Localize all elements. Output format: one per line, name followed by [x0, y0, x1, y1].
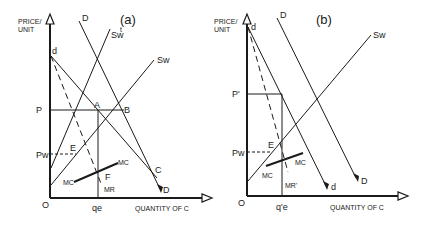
- label-Pw: Pw: [36, 150, 49, 160]
- label-Swt: Sw: [111, 30, 124, 40]
- label-d: d: [52, 46, 57, 56]
- label-d-top: d: [251, 22, 256, 32]
- label-Swt-sup: t: [120, 26, 122, 33]
- origin-label: O: [238, 198, 245, 208]
- x-axis-label: QUANTITY OF C: [330, 204, 384, 212]
- supply-curve-sw: [248, 35, 371, 181]
- y-axis-label-unit: UNIT: [18, 26, 35, 33]
- label-P: P: [36, 105, 42, 115]
- label-qe: qe: [92, 203, 102, 213]
- y-axis-label: PRICE/: [18, 18, 41, 25]
- label-A: A: [94, 100, 100, 110]
- y-axis-label-unit: UNIT: [214, 26, 231, 33]
- demand-curve-D: [277, 18, 356, 178]
- demand-curve-d: [51, 56, 157, 178]
- label-MC-left: MC: [63, 179, 74, 186]
- y-axis-label: PRICE/: [214, 18, 237, 25]
- label-Pw: Pw: [232, 148, 245, 158]
- demand-arrow-icon: [323, 181, 329, 190]
- panel-b: PRICE/ UNIT (b) O QUANTITY OF C D D d d …: [214, 10, 408, 212]
- supply-curve-sw: [51, 60, 154, 185]
- y-axis-arrow-icon: [46, 14, 54, 24]
- panel-title-b: (b): [316, 12, 332, 27]
- label-MR-prime: MR': [285, 182, 297, 189]
- demand-arrow-icon: [353, 173, 359, 182]
- x-axis-arrow-icon: [398, 192, 408, 200]
- label-Sw: Sw: [157, 55, 170, 65]
- y-axis-arrow-icon: [243, 14, 251, 24]
- label-B: B: [124, 105, 130, 115]
- x-axis-arrow-icon: [202, 194, 212, 202]
- label-MC-left: MC: [262, 172, 273, 179]
- label-E: E: [70, 143, 76, 153]
- label-qe-prime: q'e: [276, 202, 288, 212]
- label-MC-right: MC: [118, 159, 129, 166]
- panel-title-a: (a): [120, 12, 136, 27]
- origin-label: O: [42, 200, 49, 210]
- label-Sw: Sw: [373, 30, 386, 40]
- label-D-bottom: D: [163, 185, 170, 195]
- diagram-canvas: PRICE/ UNIT (a) O QUANTITY OF C D D d C …: [0, 0, 430, 229]
- label-C: C: [155, 165, 162, 175]
- label-D-bottom: D: [361, 176, 368, 186]
- label-MC-right: MC: [295, 159, 306, 166]
- label-E: E: [268, 140, 274, 150]
- label-D-top: D: [82, 13, 89, 23]
- label-d-bottom: d: [331, 182, 336, 192]
- demand-curve-d: [248, 27, 326, 186]
- x-axis-label: QUANTITY OF C: [135, 205, 189, 213]
- supply-curve-swt: [51, 29, 110, 168]
- label-D-top: D: [280, 10, 287, 20]
- marginal-cost-curve: [74, 163, 118, 182]
- panel-a: PRICE/ UNIT (a) O QUANTITY OF C D D d C …: [18, 12, 212, 213]
- label-MR: MR: [104, 186, 115, 193]
- marginal-revenue-curve: [51, 56, 102, 186]
- label-P-prime: P': [232, 89, 240, 99]
- label-F: F: [105, 172, 111, 182]
